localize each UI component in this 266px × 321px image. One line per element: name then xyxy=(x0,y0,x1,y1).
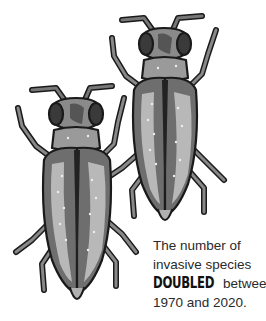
caption-line-4: 1970 and 2020. xyxy=(153,293,266,312)
caption-line-3: DOUBLED between xyxy=(153,274,266,293)
beetle-illustration-bottom xyxy=(4,74,154,314)
caption-emphasis: DOUBLED xyxy=(153,274,214,293)
caption-line-2: invasive species xyxy=(153,255,266,274)
caption-line-3-rest: between xyxy=(219,276,266,291)
caption-line-1: The number of xyxy=(153,236,266,255)
caption-text: The number of invasive species DOUBLED b… xyxy=(153,236,266,312)
